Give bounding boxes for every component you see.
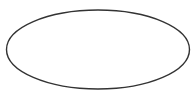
ellipse-shape[interactable] [7,10,190,89]
ellipse-svg-container [0,0,196,97]
drawing-canvas [0,0,196,97]
